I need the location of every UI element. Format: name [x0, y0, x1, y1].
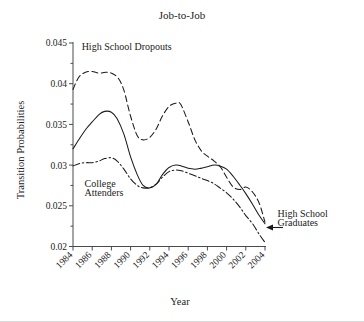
annotations-group: High School DropoutsCollegeAttendersHigh… — [82, 41, 328, 228]
chart-container: Job-to-Job Transition Probabilities Year… — [0, 0, 364, 322]
x-tick-label: 1994 — [150, 250, 171, 271]
job-to-job-line-chart: Job-to-Job Transition Probabilities Year… — [0, 0, 364, 322]
y-tick-label: 0.035 — [46, 120, 68, 130]
y-tick-label: 0.03 — [50, 161, 67, 171]
y-tick-label: 0.04 — [50, 79, 67, 89]
x-tick-label: 1986 — [73, 250, 94, 271]
series-annotation: High School Dropouts — [82, 41, 172, 52]
x-tick-label: 1998 — [188, 250, 209, 271]
x-axis-label: Year — [170, 296, 190, 307]
series-line-high-school-dropouts — [73, 71, 265, 222]
x-tick-label: 1992 — [131, 250, 152, 271]
series-line-college-attenders — [73, 158, 265, 243]
x-tick-label: 2002 — [227, 250, 248, 271]
x-tick-label: 1988 — [92, 250, 113, 271]
chart-title: Job-to-Job — [159, 9, 206, 21]
x-tick-label: 2004 — [246, 250, 267, 271]
x-axis: 1984198619881990199219941996199820002002… — [54, 247, 267, 271]
y-tick-label: 0.025 — [46, 201, 68, 211]
y-tick-label: 0.02 — [50, 242, 67, 252]
x-tick-label: 1996 — [169, 250, 190, 271]
series-line-high-school-graduates — [73, 111, 265, 224]
x-tick-label: 1984 — [54, 250, 75, 271]
x-tick-label: 1990 — [112, 250, 133, 271]
series-annotation: Attenders — [85, 187, 124, 198]
series-annotation: Graduates — [277, 217, 318, 228]
data-series-group — [73, 71, 265, 242]
y-axis-label: Transition Probabilities — [15, 101, 26, 200]
x-tick-label: 2000 — [208, 250, 229, 271]
y-axis: 0.0450.040.0350.030.0250.02 — [46, 38, 73, 252]
y-tick-label: 0.045 — [46, 38, 68, 48]
